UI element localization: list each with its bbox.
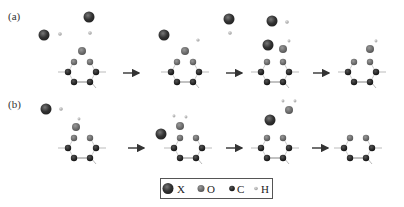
a-step-2 (159, 14, 235, 89)
a-step-4 (338, 40, 386, 88)
row-b (41, 100, 383, 164)
b-step-4 (334, 135, 382, 164)
legend: X O C H (161, 179, 273, 199)
b-step-3 (251, 100, 299, 164)
legend-h-label: H (261, 183, 269, 195)
legend-o-icon (198, 185, 205, 192)
legend-h-icon (254, 187, 258, 191)
legend-c-label: C (237, 183, 244, 195)
b-step-2 (156, 115, 213, 164)
a-step-3 (251, 16, 299, 89)
row-a (39, 12, 387, 89)
legend-x-icon (163, 183, 174, 194)
b-step-1 (41, 104, 107, 165)
legend-c-icon (229, 186, 235, 192)
legend-o-label: O (207, 183, 215, 195)
legend-x-label: X (177, 183, 185, 195)
a-step-1 (39, 12, 107, 89)
reaction-diagram: X O C H (0, 0, 404, 207)
